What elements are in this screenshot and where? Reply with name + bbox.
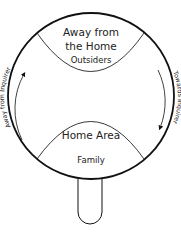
top-region-title-line1: Away from (63, 26, 119, 38)
bottom-region-subtitle: Family (77, 155, 104, 165)
mirror-diagram: Away from the Home Outsiders Home Area F… (0, 0, 181, 235)
handle (78, 178, 102, 224)
top-region-subtitle: Outsiders (71, 55, 112, 65)
bottom-region-title: Home Area (62, 129, 121, 141)
top-region-title-line2: the Home (65, 40, 117, 52)
